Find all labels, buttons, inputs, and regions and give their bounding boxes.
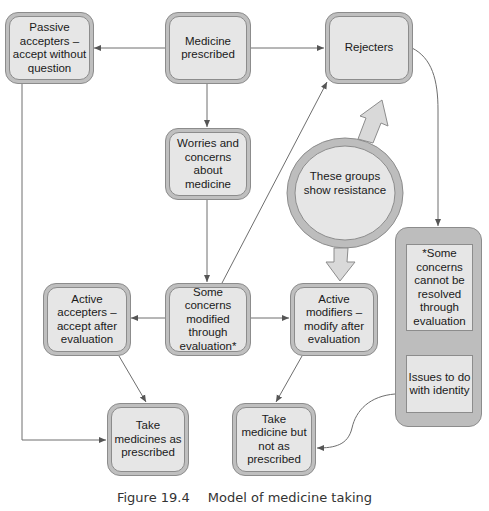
node-label: Active accepters – accept after evaluati… (47, 287, 127, 352)
node-active-modifiers: Active modifiers – modify after evaluati… (290, 283, 378, 356)
node-label: Medicine prescribed (169, 16, 247, 80)
node-label: Passive accepters – accept without quest… (9, 16, 90, 80)
node-medicine-prescribed: Medicine prescribed (165, 12, 251, 84)
resistance-label: These groups show resistance (300, 170, 390, 197)
arrow-accepters-to-take (119, 356, 146, 402)
resistance-reasons-panel: *Some concerns cannot be resolved throug… (395, 227, 482, 427)
block-arrow-up-icon (358, 100, 388, 143)
arrow-passive-to-take (22, 84, 106, 440)
node-passive-accepters: Passive accepters – accept without quest… (5, 12, 94, 84)
node-take-as-prescribed: Take medicines as prescribed (107, 403, 189, 476)
node-active-accepters: Active accepters – accept after evaluati… (43, 283, 131, 356)
block-arrow-down-icon (326, 248, 355, 281)
node-rejecters: Rejecters (325, 12, 413, 84)
node-some-concerns-modified: Some concerns modified through evaluatio… (165, 283, 251, 356)
arrow-rejecters-to-panel (412, 48, 438, 226)
arrow-identity-to-take-not (317, 394, 395, 448)
node-worries: Worries and concerns about medicine (165, 128, 251, 200)
node-take-not-as-prescribed: Take medicine but not as prescribed (232, 403, 316, 476)
node-label: Worries and concerns about medicine (169, 132, 247, 196)
caption-title: Model of medicine taking (208, 490, 372, 505)
node-identity-issues: Issues to do with identity (406, 355, 473, 413)
node-label: Active modifiers – modify after evaluati… (294, 287, 374, 352)
arrow-modifiers-to-take-not (276, 356, 302, 402)
node-label: Rejecters (329, 16, 409, 80)
node-label: Take medicine but not as prescribed (236, 407, 312, 472)
caption-number: Figure 19.4 (117, 490, 190, 505)
node-cannot-be-resolved: *Some concerns cannot be resolved throug… (406, 244, 473, 331)
node-label: Take medicines as prescribed (111, 407, 185, 472)
figure-caption: Figure 19.4 Model of medicine taking (0, 490, 489, 505)
node-label: Some concerns modified through evaluatio… (169, 287, 247, 352)
